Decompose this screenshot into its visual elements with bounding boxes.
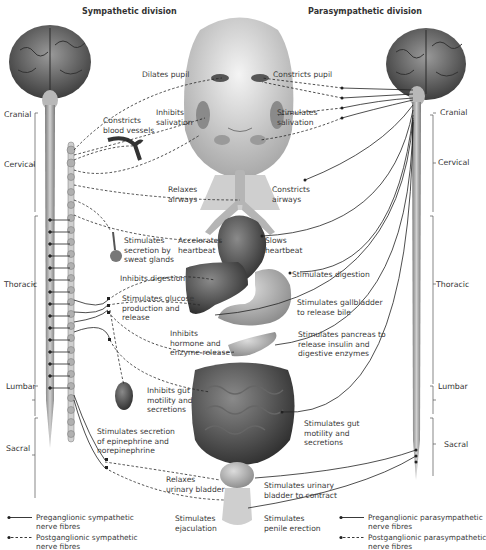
label-accelerates-heartbeat: Accelerates heartbeat: [178, 236, 222, 255]
right-region-thoracic: Thoracic: [436, 280, 469, 289]
label-stimulates-digestion: Stimulates digestion: [292, 270, 370, 280]
label-gallbladder-bile: Stimulates gallbladder to release bile: [297, 298, 383, 317]
bladder-illustration: [220, 462, 254, 488]
left-region-cervical: Cervical: [4, 160, 35, 169]
label-constricts-airways: Constricts airways: [272, 185, 310, 204]
right-region-brackets: [430, 113, 436, 476]
right-spinal-cord: [412, 102, 421, 480]
label-relaxes-airways: Relaxes airways: [168, 185, 197, 204]
label-stimulates-salivation: Stimulates salivation: [277, 108, 318, 127]
label-inhibits-digestion: Inhibits digestion: [120, 274, 185, 284]
left-spinal-cord: [45, 105, 55, 448]
right-brain: [386, 28, 466, 106]
left-brain: [9, 25, 91, 110]
legend-parasympathetic: Preganglionic parasympathetic nerve fibr…: [338, 513, 486, 550]
legend-item-preganglionic-parasympathetic: Preganglionic parasympathetic nerve fibr…: [338, 513, 486, 531]
label-slows-heartbeat: Slows heartbeat: [265, 236, 302, 255]
legend-sympathetic: Preganglionic sympathetic nerve fibres P…: [6, 513, 138, 550]
label-dilates-pupil: Dilates pupil: [142, 70, 189, 80]
label-pancreas-insulin: Stimulates pancreas to release insulin a…: [298, 330, 386, 359]
penis-illustration: [222, 488, 252, 525]
label-bladder-contract: Stimulates urinary bladder to contract: [264, 481, 337, 500]
right-region-cranial: Cranial: [440, 108, 467, 117]
sweat-gland-illustration: [110, 232, 122, 262]
label-inhibits-hormone-enzyme: Inhibits hormone and enzyme release: [170, 329, 230, 358]
dashed-line-icon: [338, 533, 368, 542]
label-penile-erection: Stimulates penile erection: [264, 514, 321, 533]
label-epinephrine-secretion: Stimulates secretion of epinephrine and …: [97, 427, 175, 456]
blood-vessel-illustration: [108, 138, 142, 160]
pancreas-illustration: [228, 332, 276, 356]
left-region-brackets: [32, 113, 38, 498]
right-region-sacral: Sacral: [444, 440, 468, 449]
dashed-line-icon: [6, 533, 36, 542]
intestines-illustration: [192, 363, 295, 466]
label-sweat-glands: Stimulates secretion by sweat glands: [124, 236, 174, 265]
label-inhibits-salivation: Inhibits salivation: [156, 108, 193, 127]
kidney-illustration: [115, 382, 133, 410]
label-relaxes-bladder: Relaxes urinary bladder: [166, 475, 225, 494]
left-region-cranial: Cranial: [4, 110, 31, 119]
solid-line-icon: [6, 513, 36, 522]
label-constricts-pupil: Constricts pupil: [273, 70, 332, 80]
label-inhibits-gut-motility: Inhibits gut motility and secretions: [147, 386, 193, 415]
legend-item-postganglionic-parasympathetic: Postganglionic parasympathetic nerve fib…: [338, 533, 486, 550]
label-glucose-release: Stimulates glucose production and releas…: [122, 294, 194, 323]
left-region-thoracic: Thoracic: [4, 280, 37, 289]
left-region-sacral: Sacral: [6, 444, 30, 453]
right-region-lumbar: Lumbar: [438, 382, 468, 391]
left-region-lumbar: Lumbar: [6, 382, 36, 391]
legend-item-preganglionic-sympathetic: Preganglionic sympathetic nerve fibres: [6, 513, 138, 531]
right-region-cervical: Cervical: [438, 158, 469, 167]
label-constricts-blood-vessels: Constricts blood vessels: [103, 116, 154, 135]
solid-line-icon: [338, 513, 368, 522]
label-stimulates-ejaculation: Stimulates ejaculation: [175, 514, 217, 533]
legend-item-postganglionic-sympathetic: Postganglionic sympathetic nerve fibres: [6, 533, 138, 550]
label-stimulates-gut-motility: Stimulates gut motility and secretions: [304, 419, 360, 448]
